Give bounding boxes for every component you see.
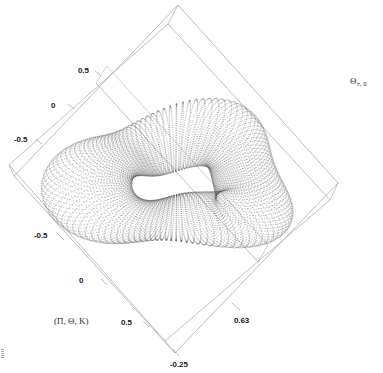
box-edge-right (330, 183, 338, 200)
tick-mark-u--0.5 (36, 139, 42, 144)
tick-label-v-low: -0.5 (34, 231, 47, 240)
bounding-box-wireframe (9, 5, 338, 356)
tick-label-u-low: -0.5 (14, 135, 27, 144)
tick-label-u-mid: 0 (51, 101, 55, 110)
box-face-outer (14, 5, 338, 353)
box-face-offset (9, 24, 330, 341)
plot-canvas: 0.5 0 -0.5 -0.5 0 0.5 0.63 -0.25 (Π, Θ, … (0, 0, 383, 373)
tick-label-v-high: 0.5 (121, 318, 132, 327)
tick-mark-u-0.5 (95, 71, 101, 76)
axis-plane-diagonal-b (107, 66, 268, 245)
tick-mark-v-0 (101, 279, 107, 285)
tick-mark-v--0.5 (58, 234, 64, 240)
tick-mark-u-0 (68, 104, 74, 109)
tick-label-w-max: 0.63 (234, 316, 249, 325)
axis-label-right-subscript: ±, 0 (357, 80, 367, 87)
axis-label-right: Θ±, 0 (350, 76, 367, 87)
tick-label-v-mid: 0 (79, 276, 83, 285)
box-edge-bottom (165, 341, 175, 353)
corner-artifact-mark (1, 349, 4, 358)
tick-label-u-high: 0.5 (78, 66, 89, 75)
parametric-surface-dots (41, 98, 293, 248)
box-edge-left (9, 165, 14, 176)
axis-plane-cap-right (258, 245, 268, 262)
box-edge-top (168, 5, 178, 24)
tick-label-w-min: -0.25 (170, 360, 188, 369)
axis-label-left: (Π, Θ, Κ) (54, 316, 89, 326)
tick-mark-w-0.63 (232, 303, 240, 310)
surface-dot-path (41, 98, 293, 248)
